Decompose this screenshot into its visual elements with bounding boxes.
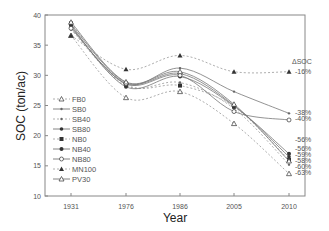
y-tick-label: 15	[33, 162, 41, 169]
legend-label: MN100	[72, 165, 96, 174]
x-axis-title: Year	[163, 211, 187, 225]
legend-label: SB40	[72, 115, 90, 124]
x-tick-label: 1976	[118, 203, 134, 210]
series-nb80	[69, 26, 291, 122]
legend-item-nb40: NB40	[53, 145, 91, 154]
y-tick-label: 10	[33, 193, 41, 200]
delta-soc-label: -56%	[295, 136, 311, 143]
legend-label: SB0	[72, 105, 86, 114]
delta-soc-label: -16%	[295, 68, 311, 75]
x-tick-label: 2010	[281, 203, 297, 210]
legend-label: NB0	[72, 135, 87, 144]
legend-label: SB80	[72, 125, 90, 134]
series-sb40	[70, 28, 290, 166]
legend-label: NB80	[72, 155, 91, 164]
delta-soc-label: -40%	[295, 115, 311, 122]
y-tick-label: 25	[33, 102, 41, 109]
legend-item-pv30: PV30	[53, 175, 90, 184]
legend-item-nb80: NB80	[53, 155, 91, 164]
y-tick-label: 40	[33, 12, 41, 19]
x-tick-label: 2005	[226, 203, 242, 210]
x-tick-label: 1986	[172, 203, 188, 210]
y-tick-label: 20	[33, 132, 41, 139]
legend-label: NB40	[72, 145, 91, 154]
legend-item-mn100: MN100	[53, 165, 96, 174]
y-tick-label: 35	[33, 42, 41, 49]
y-axis-title: SOC (ton/ac)	[14, 71, 28, 141]
delta-soc-annotations: ΔSOC-16%-38%-40%-56%-56%-59%-58%-60%-63%	[292, 58, 312, 176]
delta-soc-label: -63%	[295, 169, 311, 176]
y-tick-label: 30	[33, 72, 41, 79]
delta-soc-header: ΔSOC	[292, 58, 312, 65]
legend-item-sb0: SB0	[53, 105, 86, 114]
legend-item-fb0: FB0	[53, 95, 86, 104]
series-line	[71, 29, 289, 164]
legend-label: FB0	[72, 95, 86, 104]
legend-label: PV30	[72, 175, 90, 184]
legend: FB0SB0SB40SB80NB0NB40NB80MN100PV30	[53, 95, 96, 184]
soc-line-chart: 1015202530354019311976198620052010YearSO…	[0, 0, 329, 231]
legend-item-nb0: NB0	[53, 135, 87, 144]
legend-item-sb80: SB80	[53, 125, 90, 134]
x-tick-label: 1931	[63, 203, 79, 210]
legend-item-sb40: SB40	[53, 115, 90, 124]
